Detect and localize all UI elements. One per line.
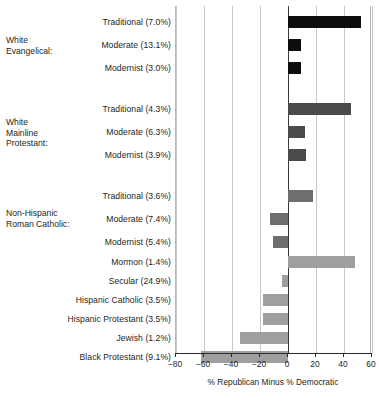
bar <box>288 16 361 28</box>
group-label: WhiteMainlineProtestant: <box>6 117 48 149</box>
bar <box>288 39 301 51</box>
gridline--80 <box>176 6 177 353</box>
row-label: Mormon (1.4%) <box>111 257 171 267</box>
group-label-line: Evangelical: <box>6 46 52 57</box>
row-label: Secular (24.9%) <box>109 276 171 286</box>
x-tick-label--40: −40 <box>218 359 244 369</box>
x-tick-label-60: 60 <box>358 359 379 369</box>
row-label: Moderate (6.3%) <box>106 127 171 137</box>
x-tick--20 <box>259 353 260 357</box>
gridline-20 <box>316 6 317 353</box>
gridline--60 <box>204 6 205 353</box>
x-tick-label--60: −60 <box>190 359 216 369</box>
row-label: Hispanic Catholic (3.5%) <box>76 295 171 305</box>
gridline-60 <box>372 6 373 353</box>
row-label: Moderate (7.4%) <box>106 214 171 224</box>
group-label: WhiteEvangelical: <box>6 35 52 56</box>
row-label: Traditional (7.0%) <box>103 17 171 27</box>
bar <box>288 149 306 161</box>
row-label: Hispanic Protestant (3.5%) <box>67 314 171 324</box>
plot-area <box>175 6 371 353</box>
bar <box>288 62 301 74</box>
x-tick-label-40: 40 <box>330 359 356 369</box>
bar <box>263 313 288 325</box>
x-tick-label--20: −20 <box>246 359 272 369</box>
bar <box>240 332 288 344</box>
group-label-line: Non-Hispanic <box>6 208 70 219</box>
group-label-line: White <box>6 35 52 46</box>
row-label: Black Protestant (9.1%) <box>80 352 171 362</box>
bar <box>263 294 288 306</box>
row-label: Modernist (3.9%) <box>105 150 171 160</box>
group-label-line: White <box>6 117 48 128</box>
bar <box>282 275 288 287</box>
gridline-40 <box>344 6 345 353</box>
row-label: Modernist (3.0%) <box>105 63 171 73</box>
x-tick-20 <box>315 353 316 357</box>
gridline--40 <box>232 6 233 353</box>
group-label-line: Protestant: <box>6 138 48 149</box>
x-tick--60 <box>203 353 204 357</box>
row-label: Moderate (13.1%) <box>101 40 171 50</box>
x-axis-title: % Republican Minus % Democratic <box>175 377 371 387</box>
group-label-line: Roman Catholic: <box>6 219 70 230</box>
row-label: Traditional (3.6%) <box>103 191 171 201</box>
x-tick--40 <box>231 353 232 357</box>
x-axis-line <box>175 353 371 354</box>
bar <box>270 213 288 225</box>
bar <box>273 236 288 248</box>
gridline--20 <box>260 6 261 353</box>
category-label-column: Traditional (7.0%)Moderate (13.1%)Modern… <box>0 0 175 353</box>
x-tick-label-20: 20 <box>302 359 328 369</box>
bar <box>288 190 313 202</box>
row-label: Traditional (4.3%) <box>103 104 171 114</box>
x-tick-label--80: −80 <box>162 359 188 369</box>
x-tick-0 <box>287 353 288 357</box>
row-label: Modernist (5.4%) <box>105 237 171 247</box>
row-label: Jewish (1.2%) <box>116 333 171 343</box>
bar <box>288 256 355 268</box>
chart-container: Traditional (7.0%)Moderate (13.1%)Modern… <box>0 0 379 413</box>
x-tick--80 <box>175 353 176 357</box>
group-label: Non-HispanicRoman Catholic: <box>6 208 70 229</box>
group-label-line: Mainline <box>6 128 48 139</box>
bar <box>288 103 351 115</box>
bar <box>288 126 305 138</box>
x-tick-label-0: 0 <box>274 359 300 369</box>
zero-line <box>288 6 289 353</box>
x-tick-40 <box>343 353 344 357</box>
x-tick-60 <box>371 353 372 357</box>
